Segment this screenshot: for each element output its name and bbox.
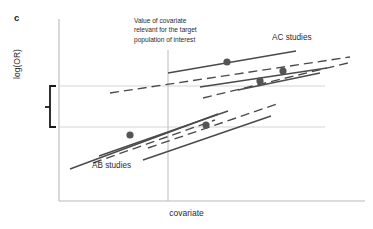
figure-panel-c: c log(OR) covariate Value of covariate r…: [0, 0, 373, 229]
annotation-line-2: relevant for the target: [134, 25, 232, 34]
study-marker: [279, 67, 286, 74]
interval-bracket: [45, 86, 56, 127]
bracket-outline: [50, 86, 56, 127]
study-marker: [126, 131, 133, 138]
group-label-ab: AB studies: [92, 161, 131, 170]
x-axis-label: covariate: [0, 208, 373, 218]
reference-line-annotation: Value of covariate relevant for the targ…: [134, 16, 232, 44]
annotation-line-1: Value of covariate: [134, 16, 232, 25]
study-marker: [202, 121, 209, 128]
axes-group: [59, 19, 365, 201]
panel-label: c: [14, 12, 19, 23]
y-axis-label: log(OR): [12, 24, 22, 104]
study-lines-group: [70, 51, 352, 169]
group-label-ac: AC studies: [272, 33, 312, 42]
study-line-solid: [99, 111, 228, 156]
study-marker: [223, 58, 230, 65]
guide-lines-group: [59, 86, 325, 127]
annotation-line-3: population of interest: [134, 35, 232, 44]
study-marker: [256, 77, 263, 84]
study-line-solid: [168, 51, 296, 73]
